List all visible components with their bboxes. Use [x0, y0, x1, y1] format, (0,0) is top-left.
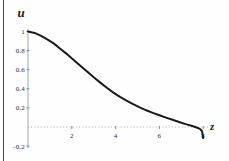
x-axis-label: z — [209, 120, 215, 132]
u-profile-curve — [28, 32, 203, 139]
y-tick-label: 0.6 — [16, 66, 26, 74]
plot-canvas: 246810.80.60.40.2-0.2 u z — [0, 0, 229, 161]
x-tick-label: 2 — [70, 132, 74, 140]
y-tick-label: 0.4 — [16, 85, 26, 93]
y-tick-label: -0.2 — [13, 143, 25, 151]
x-tick-label: 6 — [158, 132, 162, 140]
y-tick-label: 1 — [21, 28, 25, 36]
y-tick-label: 0.2 — [16, 104, 26, 112]
x-tick-label: 4 — [114, 132, 118, 140]
y-axis-label: u — [17, 5, 24, 20]
y-tick-label: 0.8 — [16, 47, 26, 55]
scanned-plot-page: 246810.80.60.40.2-0.2 u z — [0, 0, 229, 161]
tick-marks-group — [27, 32, 204, 147]
